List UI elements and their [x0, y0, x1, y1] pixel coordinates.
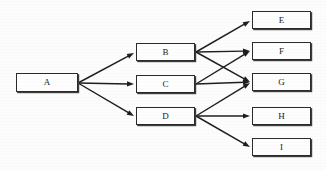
node-c[interactable]: C — [136, 75, 195, 93]
node-d[interactable]: D — [136, 107, 195, 125]
arrowhead-d-to-i — [243, 141, 250, 147]
arrowhead-a-to-c — [127, 81, 134, 86]
node-h-label: H — [278, 112, 285, 121]
node-a[interactable]: A — [16, 73, 78, 92]
node-i[interactable]: I — [252, 138, 311, 156]
edge-b-to-e — [196, 24, 245, 52]
edge-c-to-g — [196, 82, 245, 84]
node-d-label: D — [162, 112, 169, 121]
node-h[interactable]: H — [252, 107, 311, 125]
edge-d-to-i — [196, 116, 245, 144]
node-b-label: B — [162, 48, 168, 57]
node-c-label: C — [162, 80, 168, 89]
edge-a-to-b — [78, 56, 129, 83]
node-g[interactable]: G — [252, 73, 311, 91]
node-e[interactable]: E — [252, 11, 311, 29]
edge-a-to-d — [78, 83, 129, 113]
edge-b-to-g — [196, 52, 245, 79]
arrowhead-d-to-h — [243, 113, 250, 118]
node-f-label: F — [279, 47, 284, 56]
arrowhead-b-to-e — [243, 21, 250, 27]
edge-d-to-g — [196, 86, 245, 116]
node-g-label: G — [278, 78, 285, 87]
node-f[interactable]: F — [252, 42, 311, 60]
node-a-label: A — [44, 78, 51, 87]
diagram-canvas: A B C D E F G H I — [0, 0, 326, 170]
arrowhead-a-to-b — [127, 53, 134, 59]
edge-c-to-f — [196, 54, 245, 84]
edge-a-to-c — [78, 83, 129, 84]
node-b[interactable]: B — [136, 43, 195, 61]
arrowhead-a-to-d — [127, 110, 134, 116]
node-e-label: E — [279, 16, 285, 25]
node-i-label: I — [280, 143, 283, 152]
edge-b-to-f — [196, 51, 245, 52]
